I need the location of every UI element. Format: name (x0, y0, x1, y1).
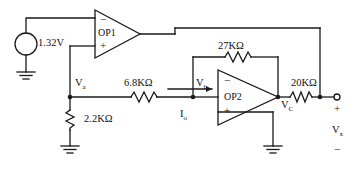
junction-dot-va (68, 95, 73, 100)
output-vx-subscript: x (340, 130, 344, 138)
circuit-diagram: 1.32V OP1 − + OP2 − + Va Vb VC Io 2.2KΩ … (0, 0, 358, 169)
junction-dot-vb (191, 95, 196, 100)
source-symbol-circle (15, 33, 37, 55)
resistor-2k2-unit: Ω (105, 113, 113, 124)
resistor-27k-zigzag (225, 52, 251, 62)
node-va-letter: V (75, 77, 83, 88)
node-vb-subscript: b (204, 83, 208, 91)
current-io-label: Io (180, 109, 187, 122)
op1-label: OP1 (98, 28, 116, 38)
output-minus-sign: − (334, 144, 340, 155)
op1-noninverting-sign: + (100, 40, 106, 51)
node-vb-label: Vb (196, 78, 207, 91)
resistor-6k8-value: 6.8K (124, 77, 145, 88)
op1-inverting-sign: − (100, 14, 106, 25)
current-io-subscript: o (184, 114, 188, 122)
output-vx-label: Vx (332, 125, 343, 138)
resistor-20k-label: 20KΩ (291, 78, 317, 89)
node-vc-subscript: C (289, 105, 294, 113)
op2-inverting-sign: − (224, 75, 230, 86)
op2-noninverting-sign: + (224, 105, 230, 116)
op2-label: OP2 (224, 92, 242, 102)
junction-dot-output (318, 95, 323, 100)
resistor-20k-unit: Ω (309, 77, 317, 88)
resistor-2k2-zigzag (66, 110, 74, 130)
resistor-20k-zigzag (290, 92, 312, 102)
output-terminal-plus-circle (334, 94, 340, 100)
junction-dot-vc (276, 95, 281, 100)
wire-source-to-op1-inv (26, 18, 95, 33)
resistor-6k8-label: 6.8KΩ (124, 78, 153, 89)
node-vb-letter: V (196, 77, 204, 88)
output-vx-letter: V (332, 124, 340, 135)
node-vc-letter: V (281, 99, 289, 110)
source-value-label: 1.32V (38, 38, 64, 49)
output-plus-sign: + (334, 103, 340, 114)
resistor-20k-value: 20K (291, 77, 309, 88)
resistor-6k8-unit: Ω (145, 77, 153, 88)
resistor-2k2-value: 2.2K (84, 113, 105, 124)
node-vc-label: VC (281, 100, 293, 113)
resistor-27k-unit: Ω (236, 40, 244, 51)
resistor-2k2-label: 2.2KΩ (84, 114, 113, 125)
resistor-27k-label: 27KΩ (218, 41, 244, 52)
node-va-label: Va (75, 78, 86, 91)
resistor-27k-value: 27K (218, 40, 236, 51)
node-va-subscript: a (83, 83, 86, 91)
resistor-6k8-zigzag (131, 92, 157, 102)
